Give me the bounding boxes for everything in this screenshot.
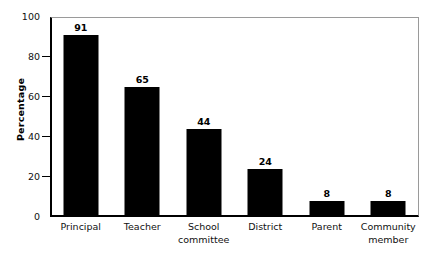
bar-value-label: 24 [259,157,272,167]
bar-group[interactable]: 24 [235,17,297,217]
y-tick-label: 100 [0,12,40,22]
bar[interactable] [186,129,221,217]
bar-value-label: 8 [323,189,330,199]
bar-group[interactable]: 44 [173,17,235,217]
bar-group[interactable]: 8 [296,17,358,217]
y-axis-title: Percentage [15,64,26,156]
x-axis-label-line: committee [167,234,241,247]
bar[interactable] [309,201,344,217]
y-tick-label: 40 [0,132,40,142]
bar[interactable] [63,35,98,217]
x-axis-labels: PrincipalTeacherSchoolcommitteeDistrictP… [50,221,419,261]
bar-group[interactable]: 8 [358,17,420,217]
bar-chart: Percentage 020406080100 9165442488 Princ… [0,0,436,264]
bar-value-label: 91 [74,23,87,33]
bar-value-label: 8 [385,189,392,199]
y-tick-label: 20 [0,172,40,182]
y-tick-label: 80 [0,52,40,62]
x-axis-label-line: member [352,234,426,247]
x-axis-label-line: Community [352,221,426,234]
bar[interactable] [248,169,283,217]
bar-group[interactable]: 65 [112,17,174,217]
bar-group[interactable]: 91 [50,17,112,217]
bar-value-label: 65 [136,75,149,85]
y-tick-label: 60 [0,92,40,102]
x-axis-label: Communitymember [352,221,426,246]
bar[interactable] [371,201,406,217]
bars-layer: 9165442488 [50,17,419,217]
bar-value-label: 44 [197,117,210,127]
bar[interactable] [125,87,160,217]
y-tick-label: 0 [0,212,40,222]
